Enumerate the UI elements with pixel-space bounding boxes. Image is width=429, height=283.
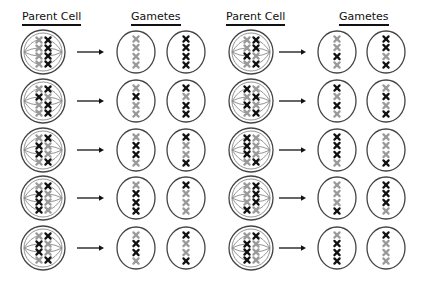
- parent-cell-membrane: [21, 79, 65, 123]
- parent-cell-membrane: [21, 176, 65, 220]
- gamete-membrane: [117, 227, 155, 269]
- meiosis-row: [21, 79, 205, 123]
- black-chromosome-icon: [133, 152, 138, 157]
- black-chromosome-icon: [334, 143, 339, 148]
- black-chromosome-icon: [383, 182, 388, 187]
- gray-chromosome-icon: [383, 241, 388, 246]
- meiosis-row: [21, 30, 205, 74]
- gray-chromosome-icon: [334, 200, 339, 205]
- gray-chromosome-icon: [383, 250, 388, 255]
- gray-chromosome-icon: [383, 103, 388, 108]
- gray-chromosome-icon: [183, 208, 188, 213]
- black-chromosome-icon: [183, 232, 188, 237]
- black-chromosome-icon: [383, 62, 388, 67]
- gamete-cell: [318, 80, 356, 122]
- gamete-membrane: [318, 31, 356, 73]
- black-chromosome-icon: [383, 36, 388, 41]
- arrow-icon: [77, 245, 104, 251]
- parent-cell: [229, 30, 273, 74]
- gray-chromosome-icon: [183, 200, 188, 205]
- black-chromosome-icon: [334, 258, 339, 263]
- gamete-cell: [167, 227, 205, 269]
- gray-chromosome-icon: [383, 258, 388, 263]
- parent-cell-inner-ring: [232, 82, 270, 120]
- black-chromosome-icon: [183, 85, 188, 90]
- arrow-icon: [77, 147, 104, 153]
- gray-chromosome-icon: [334, 36, 339, 41]
- gamete-cell: [318, 31, 356, 73]
- parent-cell: [21, 226, 65, 270]
- meiosis-row: [21, 226, 205, 270]
- gray-chromosome-icon: [334, 94, 339, 99]
- gray-chromosome-icon: [334, 232, 339, 237]
- gray-chromosome-icon: [183, 94, 188, 99]
- black-chromosome-icon: [183, 62, 188, 67]
- meiosis-row: [229, 176, 405, 220]
- meiosis-row: [229, 128, 405, 172]
- gamete-membrane: [318, 227, 356, 269]
- gamete-cell: [167, 80, 205, 122]
- gray-chromosome-icon: [133, 258, 138, 263]
- meiosis-row: [229, 30, 405, 74]
- gamete-membrane: [117, 80, 155, 122]
- parent-cell: [21, 176, 65, 220]
- gray-chromosome-icon: [133, 36, 138, 41]
- gamete-membrane: [167, 227, 205, 269]
- parent-cell-membrane: [229, 128, 273, 172]
- black-chromosome-icon: [183, 160, 188, 165]
- parent-cell-inner-ring: [232, 229, 270, 267]
- gamete-cell: [167, 177, 205, 219]
- black-chromosome-icon: [383, 160, 388, 165]
- gamete-membrane: [367, 129, 405, 171]
- gray-chromosome-icon: [383, 85, 388, 90]
- black-chromosome-icon: [183, 258, 188, 263]
- gamete-membrane: [117, 177, 155, 219]
- gray-chromosome-icon: [334, 160, 339, 165]
- gamete-cell: [117, 177, 155, 219]
- gray-chromosome-icon: [183, 143, 188, 148]
- black-chromosome-icon: [183, 182, 188, 187]
- gray-chromosome-icon: [133, 103, 138, 108]
- gamete-membrane: [318, 80, 356, 122]
- gray-chromosome-icon: [334, 45, 339, 50]
- gamete-cell: [167, 31, 205, 73]
- black-chromosome-icon: [334, 134, 339, 139]
- arrow-icon: [77, 98, 104, 104]
- gamete-membrane: [367, 80, 405, 122]
- parent-cell-membrane: [21, 30, 65, 74]
- black-chromosome-icon: [334, 208, 339, 213]
- gray-chromosome-icon: [383, 143, 388, 148]
- black-chromosome-icon: [334, 103, 339, 108]
- gray-chromosome-icon: [133, 85, 138, 90]
- gamete-cell: [367, 80, 405, 122]
- arrow-icon: [77, 49, 104, 55]
- gamete-membrane: [117, 31, 155, 73]
- black-chromosome-icon: [334, 241, 339, 246]
- black-chromosome-icon: [383, 232, 388, 237]
- parent-cell-inner-ring: [232, 33, 270, 71]
- black-chromosome-icon: [183, 36, 188, 41]
- gamete-cell: [117, 80, 155, 122]
- gray-chromosome-icon: [383, 208, 388, 213]
- gray-chromosome-icon: [183, 152, 188, 157]
- parent-cell: [21, 79, 65, 123]
- black-chromosome-icon: [334, 54, 339, 59]
- gamete-membrane: [117, 129, 155, 171]
- gamete-cell: [318, 129, 356, 171]
- gamete-membrane: [367, 227, 405, 269]
- gray-chromosome-icon: [383, 152, 388, 157]
- arrow-icon: [279, 98, 306, 104]
- parent-cell: [21, 128, 65, 172]
- gray-chromosome-icon: [334, 182, 339, 187]
- parent-cell-inner-ring: [24, 179, 62, 217]
- gamete-cell: [117, 129, 155, 171]
- arrow-icon: [77, 195, 104, 201]
- meiosis-row: [21, 128, 205, 172]
- arrow-icon: [279, 147, 306, 153]
- parent-cell: [229, 226, 273, 270]
- gamete-membrane: [167, 129, 205, 171]
- meiosis-diagram: [0, 0, 429, 283]
- parent-cell: [229, 128, 273, 172]
- gamete-membrane: [167, 80, 205, 122]
- gamete-cell: [367, 129, 405, 171]
